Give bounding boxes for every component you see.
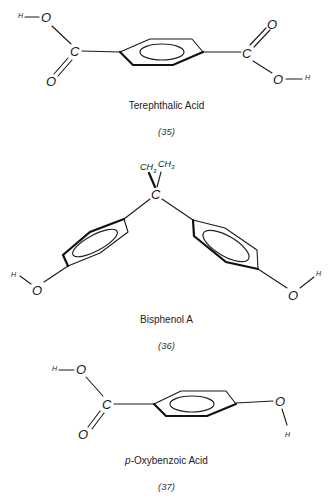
bond-ring-o <box>236 401 273 403</box>
atom-h: H <box>11 271 17 278</box>
compound-name-p-oxybenzoic-acid: p-Oxybenzoic Acid <box>0 455 333 466</box>
compound-name-terephthalic-acid: Terephthalic Acid <box>0 100 333 111</box>
name-rest: -Oxybenzoic Acid <box>131 455 208 466</box>
chemical-structures-figure: H O C O C O O H CH3 <box>0 0 333 502</box>
atom-h: H <box>18 12 24 19</box>
atom-o: O <box>76 362 86 377</box>
structures-drawing: H O C O C O O H CH3 <box>0 0 333 502</box>
terephthalic-acid-structure: H O C O C O O H <box>18 10 311 89</box>
atom-o: O <box>275 394 285 409</box>
bond-o-c <box>86 377 103 396</box>
atom-h: H <box>305 74 311 81</box>
bond-c-o-double-a <box>54 58 68 74</box>
bond-ch3 <box>157 172 161 187</box>
atom-o: O <box>273 72 283 87</box>
aromatic-circle <box>170 396 214 412</box>
atom-c: C <box>70 44 80 59</box>
bond-o-h <box>20 276 31 284</box>
compound-number-37: (37) <box>0 481 333 492</box>
atom-o: O <box>78 427 88 442</box>
benzene-ring-bottom <box>120 52 203 65</box>
bond-o-h <box>282 409 287 425</box>
compound-number-36: (36) <box>0 340 333 351</box>
atom-h: H <box>316 270 322 277</box>
benzene-ring-top <box>120 39 203 52</box>
benzene-ring-bottom <box>154 404 236 416</box>
atom-o: O <box>46 74 56 89</box>
bond-c-o <box>253 61 272 73</box>
bond-c-o-double-b <box>92 413 104 429</box>
atom-h: H <box>285 431 291 438</box>
bond-ring-o <box>44 266 68 282</box>
atom-h: H <box>52 365 58 372</box>
atom-c: C <box>151 187 161 202</box>
atom-o: O <box>267 17 277 32</box>
bisphenol-a-structure: CH3 CH3 C O H O H <box>11 159 322 303</box>
atom-o: O <box>288 288 298 303</box>
bond-wedge-ch3 <box>149 173 155 187</box>
bond-c-o-double-a <box>88 411 100 427</box>
atom-o: O <box>41 10 51 25</box>
aromatic-circle <box>140 44 184 60</box>
p-oxybenzoic-acid-structure: H O C O O H <box>52 362 291 442</box>
compound-name-bisphenol-a: Bisphenol A <box>0 314 333 325</box>
bond-c-ring-right <box>162 199 193 220</box>
atom-c: C <box>242 46 252 61</box>
compound-number-35: (35) <box>0 126 333 137</box>
atom-c: C <box>102 397 112 412</box>
bond-c-ring <box>82 51 120 52</box>
bond-o-h <box>300 277 314 288</box>
benzene-ring-top <box>154 391 236 404</box>
bond-c-ring-left <box>124 199 150 219</box>
bond-o-c <box>52 26 71 44</box>
atom-ch3: CH3 <box>158 159 175 170</box>
bond-ring-o <box>258 269 287 288</box>
bond-c-o-double-b <box>58 60 72 76</box>
atom-o: O <box>32 283 42 298</box>
